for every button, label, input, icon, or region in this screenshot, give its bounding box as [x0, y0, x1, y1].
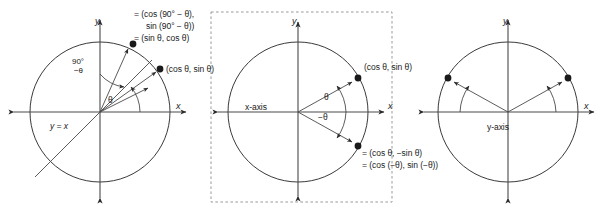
panel3-x-axis-label: x	[584, 101, 588, 112]
panel2-reflection-axis-label: x-axis	[245, 102, 267, 113]
panel2-y-axis-label: y	[292, 16, 296, 27]
panel3-reflection-axis-label: y-axis	[487, 122, 509, 133]
panel-negative-angle-graphics	[211, 12, 392, 202]
panel2-theta-arc-label: θ	[324, 92, 329, 103]
panel1-line-label-y-equals-x: y = x	[50, 121, 68, 132]
panel1-minus-theta-label: −θ	[74, 66, 83, 77]
panel-supplementary-graphics	[424, 20, 594, 198]
panel1-complementary-point-label-line2: sin (90° − θ))	[146, 21, 194, 32]
ray-theta	[508, 82, 562, 112]
theta-point	[565, 75, 572, 82]
panel-dashed-border	[211, 12, 392, 202]
panel1-complementary-point-label-line1: = (cos (90° − θ),	[134, 9, 194, 20]
supplementary-point	[445, 75, 452, 82]
ray-supplementary	[454, 82, 508, 112]
theta-point	[355, 75, 362, 82]
panel1-theta-arc-label: θ	[108, 95, 113, 106]
panel2-negative-point-label-line2: = (cos (−θ), sin (−θ))	[362, 160, 438, 171]
panel1-complementary-point-label-line3: = (sin θ, cos θ)	[134, 33, 189, 44]
panel-complementary-graphics	[14, 20, 186, 198]
theta-point	[157, 66, 164, 73]
trigonometric-unit-circle-figure: y x y = x θ 90° −θ = (cos (90° − θ), sin…	[0, 0, 607, 213]
theta-arc	[131, 87, 140, 112]
panel2-negative-point-label-line1: = (cos θ, −sin θ)	[362, 148, 422, 159]
panel2-negative-theta-arc-label: −θ	[318, 112, 328, 123]
negative-theta-point	[355, 143, 362, 150]
panel2-x-axis-label: x	[388, 101, 392, 112]
panel3-y-axis-label: y	[503, 16, 507, 27]
panel2-theta-point-label: (cos θ, sin θ)	[364, 62, 412, 73]
panel1-x-axis-label: x	[176, 101, 180, 112]
panel1-theta-point-label: (cos θ, sin θ)	[166, 64, 214, 75]
figure-vector-layer	[0, 0, 607, 213]
panel1-y-axis-label: y	[95, 16, 99, 27]
